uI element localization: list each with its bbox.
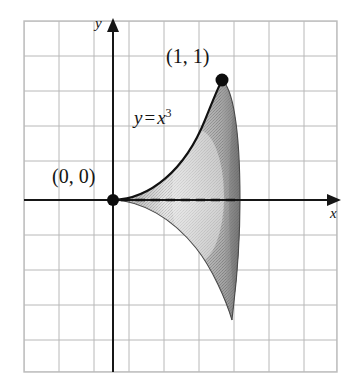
curve-equation-label: y=x3 bbox=[134, 108, 172, 127]
solid-highlight bbox=[172, 130, 224, 262]
equation-exponent: 3 bbox=[166, 106, 172, 120]
top-point bbox=[216, 74, 229, 87]
point-label-1-1: (1, 1) bbox=[166, 46, 209, 66]
y-axis-arrowhead bbox=[107, 18, 119, 32]
point-label-0-0: (0, 0) bbox=[52, 166, 95, 186]
y-axis-label: y bbox=[95, 16, 102, 31]
equation-equals-sign: = bbox=[142, 107, 157, 128]
figure-container: (1, 1) (0, 0) y=x3 x y bbox=[0, 0, 353, 386]
origin-point bbox=[107, 194, 119, 206]
equation-base: x bbox=[157, 107, 165, 128]
x-axis-label: x bbox=[330, 206, 337, 221]
